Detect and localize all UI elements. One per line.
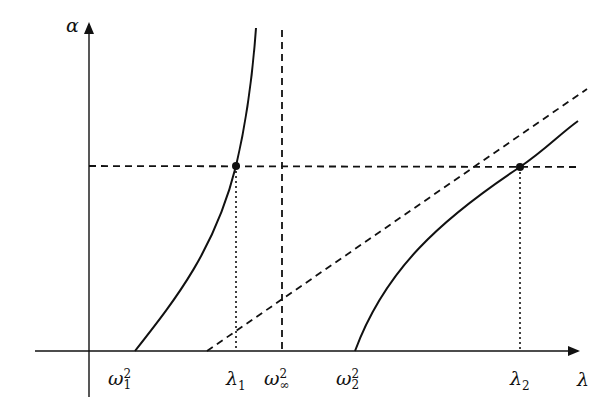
tick-scripts: 22: [352, 369, 360, 392]
alpha-level-line: [89, 166, 578, 167]
tick-base: ω: [336, 367, 352, 389]
tick-sub: ∞: [280, 378, 290, 392]
branch-1-curve: [135, 28, 256, 351]
y-axis-label: α: [66, 16, 79, 35]
tick-base: ω: [108, 367, 124, 389]
tick-sub: 2: [522, 379, 530, 393]
tick-base: ω: [264, 367, 280, 389]
x-axis-label: λ: [577, 370, 589, 389]
tick-scripts: 21: [124, 369, 132, 392]
oblique-asymptote: [207, 89, 587, 351]
tick-omega-inf-squared: ω2∞: [264, 369, 290, 392]
branch-2-curve: [355, 121, 578, 351]
tick-base: λ: [226, 367, 238, 389]
intersection-point-1: [232, 162, 240, 170]
tick-sub: 2: [352, 378, 360, 392]
tick-omega2-squared: ω22: [336, 369, 359, 392]
tick-sub: 1: [124, 378, 132, 392]
intersection-point-2: [516, 163, 524, 171]
diagram-canvas: [0, 0, 613, 413]
tick-omega1-squared: ω21: [108, 369, 131, 392]
tick-scripts: 2∞: [280, 369, 290, 392]
tick-lambda2: λ2: [510, 369, 530, 392]
tick-base: λ: [510, 367, 522, 389]
tick-sub: 1: [238, 379, 246, 393]
tick-lambda1: λ1: [226, 369, 246, 392]
